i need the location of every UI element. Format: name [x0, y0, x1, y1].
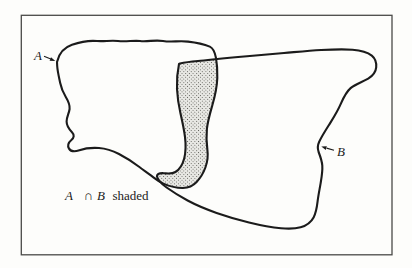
caption-intersection-symbol: ∩ — [84, 188, 93, 203]
set-a-label: A — [33, 48, 42, 63]
venn-diagram-canvas: A B A ∩ B shaded — [0, 0, 412, 268]
caption-set-a: A — [64, 188, 73, 203]
caption-set-b: B — [97, 188, 105, 203]
set-b-label: B — [337, 144, 345, 159]
caption-shaded-text: shaded — [113, 188, 150, 203]
venn-diagram-figure: A B A ∩ B shaded — [0, 0, 412, 268]
caption: A ∩ B shaded — [64, 186, 149, 203]
